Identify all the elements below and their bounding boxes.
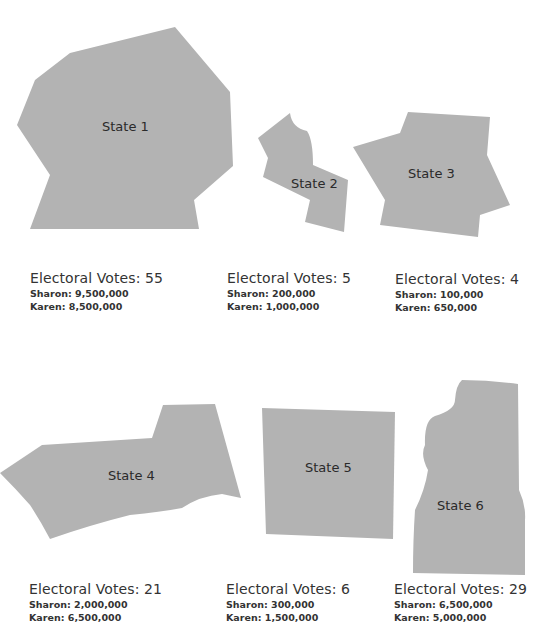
state-map: State 1 State 2 State 3 State 4 State 5 … [0,0,534,638]
state-5-info: Electoral Votes: 6 Sharon: 300,000 Karen… [226,581,350,623]
state-6-info: Electoral Votes: 29 Sharon: 6,500,000 Ka… [394,581,527,623]
state-1-label: State 1 [102,119,149,134]
electoral-votes: Electoral Votes: 6 [226,581,350,597]
state-5-label: State 5 [305,460,352,475]
state-4-label: State 4 [108,468,155,483]
state-2-shape: State 2 [258,113,348,232]
state-4-info: Electoral Votes: 21 Sharon: 2,000,000 Ka… [29,581,162,623]
sharon-votes: Sharon: 300,000 [226,599,350,610]
state-1-shape: State 1 [17,27,233,229]
electoral-votes: Electoral Votes: 29 [394,581,527,597]
state-2-label: State 2 [291,176,338,191]
state-6-shape: State 6 [413,380,525,575]
state-3-info: Electoral Votes: 4 Sharon: 100,000 Karen… [395,271,519,313]
state-2-info: Electoral Votes: 5 Sharon: 200,000 Karen… [227,270,351,312]
state-5-shape: State 5 [262,408,395,539]
sharon-votes: Sharon: 2,000,000 [29,599,162,610]
electoral-votes: Electoral Votes: 21 [29,581,162,597]
karen-votes: Karen: 1,000,000 [227,301,351,312]
electoral-votes: Electoral Votes: 4 [395,271,519,287]
state-3-shape: State 3 [353,112,510,237]
sharon-votes: Sharon: 200,000 [227,288,351,299]
state-4-shape: State 4 [0,404,241,539]
electoral-votes: Electoral Votes: 55 [30,270,163,286]
karen-votes: Karen: 650,000 [395,302,519,313]
sharon-votes: Sharon: 6,500,000 [394,599,527,610]
state-6-label: State 6 [437,498,484,513]
sharon-votes: Sharon: 100,000 [395,289,519,300]
karen-votes: Karen: 6,500,000 [29,612,162,623]
karen-votes: Karen: 1,500,000 [226,612,350,623]
sharon-votes: Sharon: 9,500,000 [30,288,163,299]
karen-votes: Karen: 8,500,000 [30,301,163,312]
electoral-votes: Electoral Votes: 5 [227,270,351,286]
karen-votes: Karen: 5,000,000 [394,612,527,623]
state-3-label: State 3 [408,166,455,181]
state-1-info: Electoral Votes: 55 Sharon: 9,500,000 Ka… [30,270,163,312]
